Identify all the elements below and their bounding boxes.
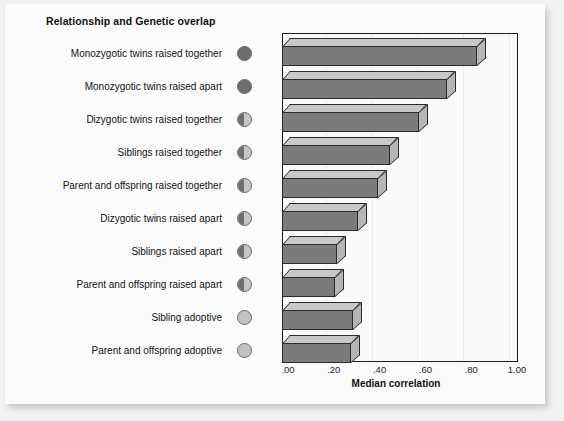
- bar-front-face: [282, 310, 353, 330]
- genetic-overlap-column: [231, 37, 257, 367]
- category-row: Siblings raised apart: [33, 235, 229, 268]
- genetic-overlap-half-circle-icon: [237, 112, 252, 127]
- genetic-overlap-row: [231, 169, 257, 202]
- category-row: Siblings raised together: [33, 136, 229, 169]
- genetic-overlap-full-circle-icon: [237, 46, 252, 61]
- category-label: Parent and offspring adoptive: [92, 345, 229, 356]
- genetic-overlap-full-circle-icon: [237, 79, 252, 94]
- genetic-overlap-row: [231, 334, 257, 367]
- bar: [282, 35, 486, 68]
- genetic-overlap-row: [231, 37, 257, 70]
- x-axis-title: Median correlation: [273, 378, 519, 389]
- genetic-overlap-row: [231, 136, 257, 169]
- bar: [282, 167, 387, 200]
- category-label: Siblings raised apart: [131, 246, 229, 257]
- category-row: Monozygotic twins raised together: [33, 37, 229, 70]
- category-label: Dizygotic twins raised together: [86, 114, 229, 125]
- bar-front-face: [282, 79, 447, 99]
- genetic-overlap-row: [231, 103, 257, 136]
- genetic-overlap-half-circle-icon: [237, 244, 252, 259]
- x-tick-label: 1.00: [508, 364, 527, 375]
- bar-front-face: [282, 211, 358, 231]
- genetic-overlap-row: [231, 202, 257, 235]
- chart-card: Relationship and Genetic overlap Monozyg…: [5, 4, 545, 404]
- genetic-overlap-half-circle-icon: [237, 277, 252, 292]
- bar: [282, 68, 456, 101]
- category-label-column: Monozygotic twins raised togetherMonozyg…: [33, 37, 229, 367]
- category-row: Parent and offspring adoptive: [33, 334, 229, 367]
- genetic-overlap-half-circle-icon: [237, 145, 252, 160]
- bar-front-face: [282, 343, 351, 363]
- genetic-overlap-row: [231, 70, 257, 103]
- genetic-overlap-row: [231, 301, 257, 334]
- bar-front-face: [282, 46, 477, 66]
- genetic-overlap-half-circle-icon: [237, 178, 252, 193]
- x-tick-label: .20: [327, 364, 340, 375]
- category-row: Parent and offspring raised together: [33, 169, 229, 202]
- x-tick-label: .00: [281, 364, 294, 375]
- category-row: Dizygotic twins raised together: [33, 103, 229, 136]
- genetic-overlap-row: [231, 268, 257, 301]
- category-label: Sibling adoptive: [151, 312, 229, 323]
- x-tick-label: .40: [373, 364, 386, 375]
- bar: [282, 332, 360, 365]
- category-label: Parent and offspring raised together: [63, 180, 229, 191]
- x-tick-label: .60: [419, 364, 432, 375]
- genetic-overlap-empty-circle-icon: [237, 343, 252, 358]
- genetic-overlap-row: [231, 235, 257, 268]
- category-row: Monozygotic twins raised apart: [33, 70, 229, 103]
- category-row: Parent and offspring raised apart: [33, 268, 229, 301]
- bar: [282, 299, 362, 332]
- x-tick-label: .80: [465, 364, 478, 375]
- bar-front-face: [282, 178, 378, 198]
- genetic-overlap-empty-circle-icon: [237, 310, 252, 325]
- category-row: Dizygotic twins raised apart: [33, 202, 229, 235]
- bar-front-face: [282, 277, 335, 297]
- chart-title: Relationship and Genetic overlap: [46, 15, 216, 27]
- bar: [282, 134, 399, 167]
- category-row: Sibling adoptive: [33, 301, 229, 334]
- genetic-overlap-half-circle-icon: [237, 211, 252, 226]
- plot-area: [273, 33, 519, 363]
- category-label: Siblings raised together: [117, 147, 229, 158]
- bar: [282, 233, 346, 266]
- bar-series: [273, 33, 519, 362]
- bar-front-face: [282, 145, 390, 165]
- category-label: Parent and offspring raised apart: [77, 279, 229, 290]
- bar: [282, 266, 344, 299]
- bar-front-face: [282, 112, 419, 132]
- category-label: Monozygotic twins raised apart: [85, 81, 229, 92]
- bar-front-face: [282, 244, 337, 264]
- category-label: Monozygotic twins raised together: [71, 48, 229, 59]
- bar: [282, 101, 428, 134]
- bar: [282, 200, 367, 233]
- category-label: Dizygotic twins raised apart: [100, 213, 229, 224]
- page-background: Relationship and Genetic overlap Monozyg…: [0, 0, 564, 421]
